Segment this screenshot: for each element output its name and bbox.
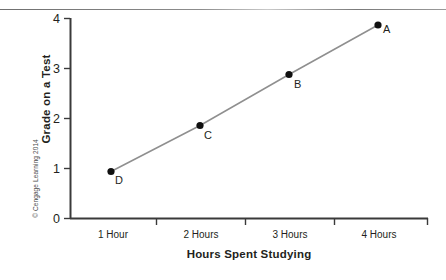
y-tick-label-4: 4 — [53, 12, 60, 26]
chart-figure: © Cengage Learning 2014 Grade on a Test … — [0, 0, 446, 280]
y-tick-label-3: 3 — [53, 62, 60, 76]
y-tick-group — [64, 19, 70, 219]
data-point-label-c: C — [204, 129, 212, 141]
x-tick-label-1-hour: 1 Hour — [98, 229, 129, 240]
y-tick-label-0: 0 — [53, 212, 60, 226]
x-tick-label-3-hours: 3 Hours — [272, 229, 307, 240]
data-point-d — [107, 168, 114, 175]
x-tick-label-4-hours: 4 Hours — [361, 229, 396, 240]
data-point-label-a: A — [383, 23, 391, 35]
data-point-c — [196, 122, 203, 129]
y-tick-label-1: 1 — [53, 162, 60, 176]
y-tick-label-2: 2 — [53, 112, 60, 126]
plot-area: 4 3 2 1 0 1 Hour 2 Hours 3 Hours 4 Hours… — [0, 0, 446, 280]
data-point-label-d: D — [115, 174, 123, 186]
data-point-label-b: B — [294, 78, 301, 90]
x-tick-label-2-hours: 2 Hours — [183, 229, 218, 240]
trend-line — [111, 25, 378, 172]
data-point-a — [374, 21, 381, 28]
data-point-b — [285, 71, 292, 78]
